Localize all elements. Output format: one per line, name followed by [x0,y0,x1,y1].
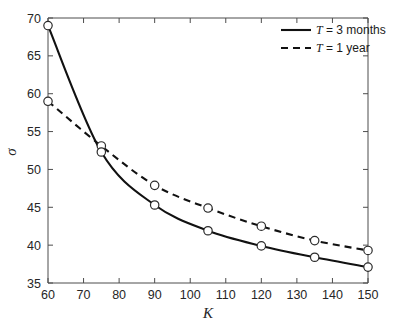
data-point-marker [364,263,372,271]
x-tick-label: 130 [286,288,307,302]
x-tick-label: 80 [112,288,126,302]
y-tick-label: 40 [27,239,41,253]
data-point-marker [310,236,318,244]
data-point-marker [257,242,265,250]
legend-label-t-3-months: T = 3 months [316,23,386,37]
y-tick-label: 65 [27,49,41,63]
data-point-marker [204,227,212,235]
data-point-marker [364,246,372,254]
y-tick-label: 60 [27,87,41,101]
data-point-marker [257,222,265,230]
y-tick-label: 35 [27,277,41,291]
x-tick-label: 150 [358,288,379,302]
x-tick-label: 110 [216,288,236,302]
x-tick-label: 70 [77,288,91,302]
data-point-marker [44,21,52,29]
legend-label-t-1-year: T = 1 year [316,41,370,55]
x-tick-label: 90 [148,288,162,302]
data-point-marker [44,97,52,105]
data-point-marker [310,253,318,261]
x-tick-label: 100 [180,288,201,302]
y-tick-label: 70 [27,12,41,26]
volatility-smile-chart: 60708090100110120130140150 3540455055606… [0,0,397,329]
x-tick-label: 60 [41,288,55,302]
y-tick-label: 45 [27,201,41,215]
data-point-marker [204,204,212,212]
y-tick-label: 50 [27,163,41,177]
y-tick-label: 55 [27,125,41,139]
data-point-marker [150,201,158,209]
x-axis-title: K [202,305,214,321]
data-point-marker [97,148,105,156]
data-point-marker [150,181,158,189]
x-tick-label: 140 [322,288,343,302]
y-axis-title: σ [3,148,19,156]
figure-container: 60708090100110120130140150 3540455055606… [0,0,397,329]
x-tick-label: 120 [251,288,272,302]
